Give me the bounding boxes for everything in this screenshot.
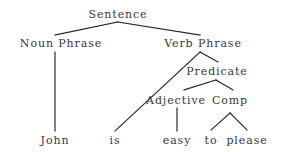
tree-edge-verb-phrase-to-predicate <box>200 52 218 62</box>
tree-node-comp: Comp <box>212 95 248 106</box>
tree-leaf-easy: easy <box>163 135 192 146</box>
tree-edge-comp-to-please <box>230 113 247 130</box>
tree-node-adjective: Adjective <box>146 95 206 106</box>
tree-node-verb-phrase: Verb Phrase <box>164 38 242 49</box>
tree-leaf-to: to <box>205 135 218 146</box>
tree-node-noun-phrase: Noun Phrase <box>20 38 102 49</box>
tree-edge-predicate-to-adjective <box>184 80 216 90</box>
tree-node-predicate: Predicate <box>186 66 247 77</box>
tree-leaf-please: please <box>226 135 267 146</box>
tree-node-sentence: Sentence <box>88 9 147 20</box>
tree-edge-sentence-to-noun-phrase <box>55 22 118 35</box>
tree-edge-sentence-to-verb-phrase <box>118 22 200 35</box>
tree-leaf-is: is <box>110 135 121 146</box>
tree-edge-predicate-to-comp <box>216 80 233 90</box>
tree-edge-verb-phrase-to-is <box>115 52 200 131</box>
syntax-tree-diagram: SentenceNoun PhraseVerb PhrasePredicateA… <box>0 0 283 152</box>
tree-edge-comp-to-to <box>211 113 230 130</box>
tree-leaf-john: John <box>41 135 70 146</box>
